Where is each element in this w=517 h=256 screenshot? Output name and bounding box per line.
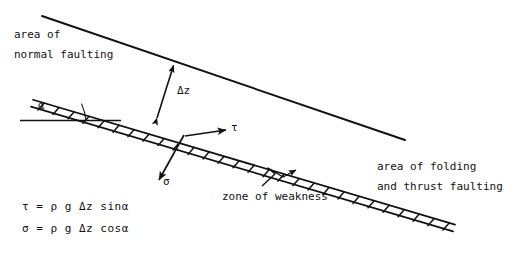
label-area-of-folding-line2: and thrust faulting xyxy=(377,180,503,193)
label-alpha: α xyxy=(38,99,45,112)
label-zone-of-weakness: zone of weakness xyxy=(222,190,328,203)
label-sigma: σ xyxy=(163,175,170,188)
top-surface-line xyxy=(42,16,405,140)
equation-tau: τ = ρ g Δz sinα xyxy=(22,200,129,213)
label-tau: τ xyxy=(231,121,238,134)
tau-arrow xyxy=(185,130,226,136)
label-area-of-normal-faulting-line1: area of xyxy=(14,28,60,41)
diagram-canvas: area of normal faulting area of folding … xyxy=(0,0,517,256)
label-area-of-normal-faulting-line2: normal faulting xyxy=(14,48,113,61)
label-delta-z: Δz xyxy=(177,84,190,97)
alpha-arc xyxy=(82,104,87,121)
diagram-vector-layer xyxy=(0,0,517,256)
delta-z-arrow xyxy=(157,66,174,119)
label-area-of-folding-line1: area of folding xyxy=(377,160,476,173)
sigma-arrow xyxy=(159,135,184,180)
equation-sigma: σ = ρ g Δz cosα xyxy=(22,222,129,235)
